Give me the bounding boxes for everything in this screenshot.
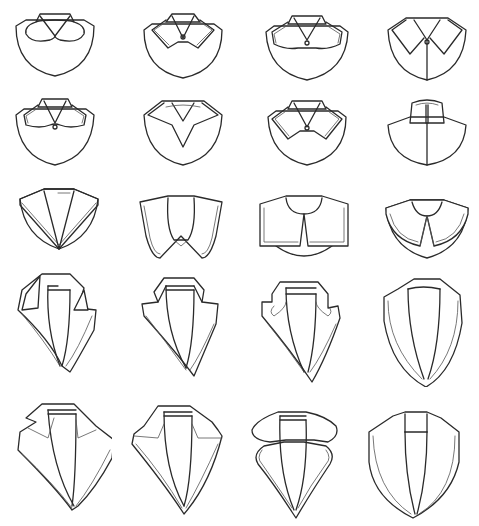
pointed-shirt-collar-with-button	[138, 8, 228, 80]
shawl-lapel	[378, 275, 468, 387]
rounded-tab-shirt-collar-with-button	[10, 95, 100, 167]
wide-shawl-lapel	[365, 402, 465, 520]
wide-notched-lapel	[12, 398, 112, 518]
mandarin-stand-collar	[382, 95, 472, 167]
rounded-notch-lapel	[256, 272, 346, 387]
pointed-convertible-collar	[382, 10, 472, 82]
notched-lapel	[14, 270, 104, 385]
square-cape-collar	[256, 190, 352, 260]
peaked-notch-lapel	[136, 272, 226, 387]
pointed-double-stitch-collar-with-button	[262, 95, 352, 167]
peter-pan-collar	[10, 8, 100, 80]
pointed-flat-collar	[138, 95, 228, 167]
puritan-collar	[136, 188, 226, 260]
rounded-shirt-collar-with-button	[262, 10, 352, 82]
wide-peaked-lapel	[128, 400, 228, 518]
deep-pointed-cape-collar	[382, 190, 472, 260]
clover-rounded-lapel	[244, 402, 344, 520]
sailor-v-collar	[14, 185, 104, 257]
